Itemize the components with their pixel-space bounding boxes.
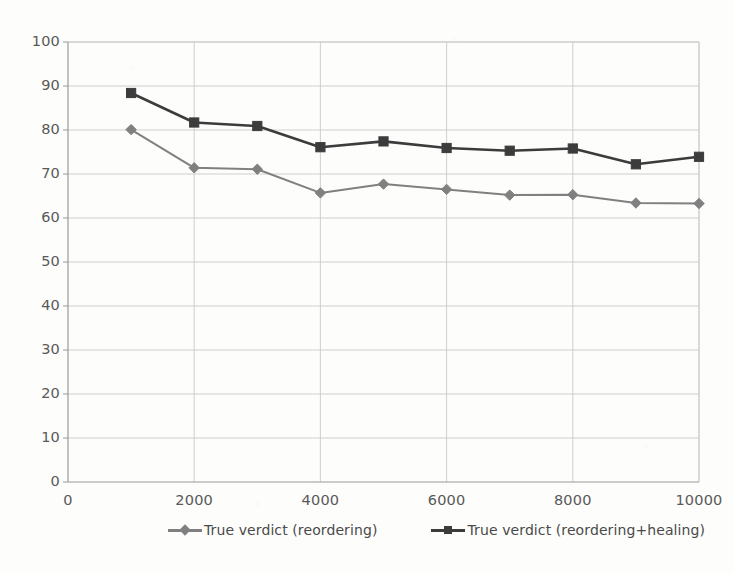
y-axis-tick-50: 50: [14, 253, 60, 269]
y-axis-tick-80: 80: [14, 121, 60, 137]
square-marker-icon: [444, 526, 452, 534]
chart-screenshot: 0102030405060708090100 02000400060008000…: [0, 0, 734, 573]
y-axis-tick-90: 90: [14, 77, 60, 93]
x-axis-tick-10000: 10000: [664, 492, 734, 508]
y-axis-tick-10: 10: [14, 429, 60, 445]
y-axis-tick-100: 100: [14, 33, 60, 49]
y-axis-tick-60: 60: [14, 209, 60, 225]
legend-entry-reordering-healing[interactable]: True verdict (reordering+healing): [431, 522, 705, 538]
x-axis-tick-6000: 6000: [412, 492, 482, 508]
line-chart-plot: [0, 0, 734, 573]
legend-label-series-2: True verdict (reordering+healing): [467, 522, 705, 538]
data-series: [126, 88, 704, 208]
y-axis-tick-0: 0: [14, 473, 60, 489]
x-axis-tick-2000: 2000: [159, 492, 229, 508]
legend-swatch-square-icon: [431, 523, 465, 537]
legend-entry-reordering[interactable]: True verdict (reordering): [168, 522, 377, 538]
y-axis-tick-20: 20: [14, 385, 60, 401]
y-axis-tick-70: 70: [14, 165, 60, 181]
chart-legend: True verdict (reordering) True verdict (…: [168, 522, 648, 538]
legend-label-series-1: True verdict (reordering): [204, 522, 377, 538]
legend-swatch-diamond-icon: [168, 523, 202, 537]
y-axis-tick-40: 40: [14, 297, 60, 313]
x-axis-tick-4000: 4000: [285, 492, 355, 508]
y-axis-tick-30: 30: [14, 341, 60, 357]
x-axis-tick-0: 0: [33, 492, 103, 508]
x-axis-tick-8000: 8000: [538, 492, 608, 508]
diamond-marker-icon: [179, 524, 190, 535]
